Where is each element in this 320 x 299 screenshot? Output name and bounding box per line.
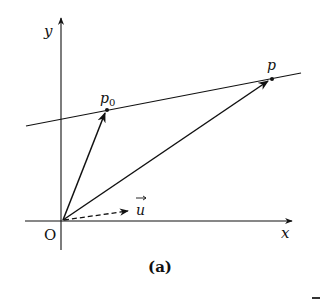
label-p: p — [267, 57, 276, 73]
u-arrow-accent-icon — [136, 196, 146, 200]
point-p0 — [105, 108, 109, 112]
line-through-p0-p — [26, 73, 301, 126]
y-axis-label: y — [43, 22, 53, 40]
origin-label: O — [44, 226, 56, 244]
vector-line-diagram: y x O p0 p u (a) — [0, 0, 320, 299]
x-axis-label: x — [281, 224, 290, 242]
point-p — [270, 77, 274, 81]
vector-O-p — [63, 81, 268, 220]
caption: (a) — [148, 258, 172, 276]
vector-O-p0 — [63, 113, 105, 220]
label-p0: p0 — [100, 90, 115, 108]
label-u: u — [136, 202, 145, 218]
